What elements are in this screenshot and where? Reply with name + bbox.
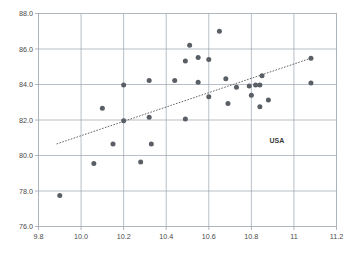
annotation-label-usa: USA [270,137,285,144]
scatter-chart: 76.078.080.082.084.086.088.09.810.010.21… [0,0,355,254]
xaxis-tick-label: 10.2 [117,232,131,241]
xaxis-tick-label: 10.6 [202,232,216,241]
data-point [91,161,96,166]
data-point [253,83,258,88]
data-point [100,106,105,111]
data-point [121,118,126,123]
data-point [223,76,228,81]
xaxis-tick-label: 10.0 [74,232,88,241]
data-point [172,78,177,83]
chart-canvas: 76.078.080.082.084.086.088.09.810.010.21… [0,0,355,254]
data-point [249,93,254,98]
yaxis-tick-label: 82.0 [19,116,33,125]
data-point [121,83,126,88]
data-point [196,55,201,60]
data-point [196,80,201,85]
yaxis-tick-label: 86.0 [19,45,33,54]
xaxis-tick-label: 11 [290,232,297,241]
data-point [257,104,262,109]
data-point [149,141,154,146]
data-point [111,141,116,146]
data-point [225,101,230,106]
data-point [247,83,252,88]
yaxis-tick-label: 78.0 [19,187,33,196]
data-point [260,73,265,78]
data-point [183,58,188,63]
data-point [257,83,262,88]
data-point [206,57,211,62]
data-point [206,94,211,99]
yaxis-tick-label: 76.0 [19,222,33,231]
trend-line [57,58,311,144]
xaxis-tick-label: 10.8 [244,232,258,241]
data-point [266,98,271,103]
data-point [147,78,152,83]
yaxis-tick-label: 84.0 [19,80,33,89]
xaxis-tick-label: 9.8 [34,232,44,241]
data-point [234,85,239,90]
data-point [57,193,62,198]
yaxis-tick-label: 80.0 [19,151,33,160]
data-point [217,29,222,34]
data-point [308,56,313,61]
data-point [187,43,192,48]
data-point [147,115,152,120]
xaxis-tick-label: 10.4 [159,232,173,241]
xaxis-tick-label: 11.2 [330,232,343,241]
data-point [308,81,313,86]
yaxis-tick-label: 88.0 [19,9,33,18]
data-point [138,160,143,165]
data-point [183,117,188,122]
